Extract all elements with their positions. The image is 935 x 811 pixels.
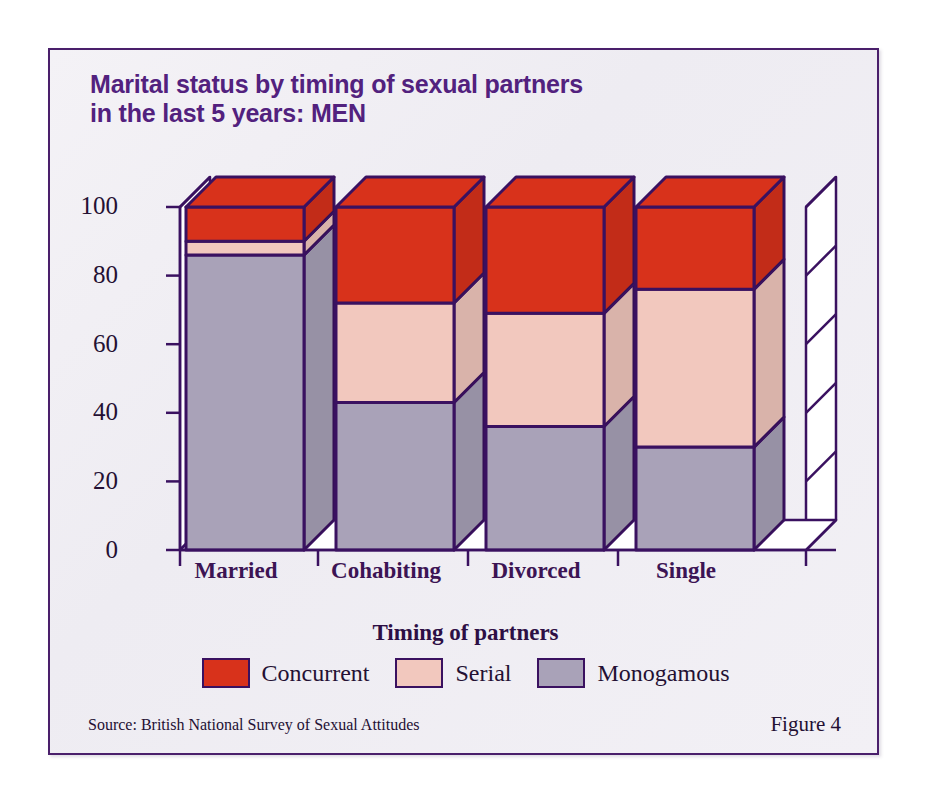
column-single [636,177,784,550]
column-front-monogamous [186,255,304,550]
legend-item-monogamous: Monogamous [537,658,729,688]
legend-item-concurrent: Concurrent [202,658,370,688]
chart-plot-area: 100 80 60 40 20 0 Married Cohabiting Div… [50,50,881,757]
column-front-concurrent [486,207,604,313]
figure-number: Figure 4 [770,712,841,737]
column-front-concurrent [636,207,754,289]
column-front-monogamous [336,403,454,550]
figure-card: Marital status by timing of sexual partn… [48,48,879,755]
stacked-column-chart [50,50,881,757]
legend-swatch-monogamous [537,658,585,688]
column-front-serial [636,289,754,447]
y-tick-label: 60 [56,330,118,358]
x-tick-label-single: Single [596,558,776,584]
column-front-serial [336,303,454,402]
right-wall [806,177,836,550]
y-tick-label: 20 [56,467,118,495]
column-married [186,177,334,550]
legend-label-serial: Serial [455,660,511,687]
legend-title: Timing of partners [50,620,881,646]
legend-swatch-concurrent [202,658,250,688]
column-front-serial [186,241,304,255]
column-divorced [486,177,634,550]
y-tick-label: 40 [56,398,118,426]
column-front-concurrent [336,207,454,303]
source-note: Source: British National Survey of Sexua… [88,716,420,734]
column-side-shade [754,259,784,447]
legend-label-monogamous: Monogamous [597,660,729,687]
y-tick-label: 0 [56,536,118,564]
legend-item-serial: Serial [395,658,511,688]
y-tick-label: 80 [56,261,118,289]
y-tick-label: 100 [56,192,118,220]
column-front-concurrent [186,207,304,241]
legend-label-concurrent: Concurrent [262,660,370,687]
legend-swatch-serial [395,658,443,688]
column-front-serial [486,313,604,426]
column-front-monogamous [486,427,604,550]
column-front-monogamous [636,447,754,550]
column-cohabiting [336,177,484,550]
chart-legend: Concurrent Serial Monogamous [50,658,881,688]
column-side-shade [304,225,334,550]
